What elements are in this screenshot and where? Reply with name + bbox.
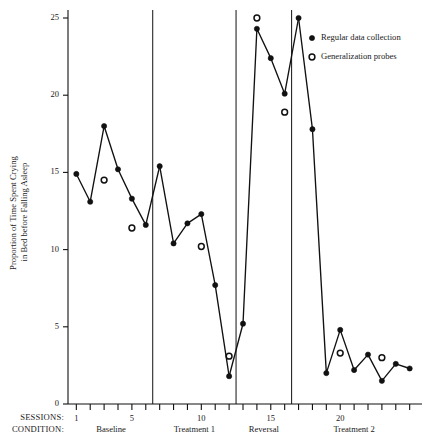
condition-row-label: CONDITION: (12, 424, 64, 434)
legend-open-circle-icon (309, 54, 315, 60)
x-tick-label: 1 (74, 413, 78, 423)
y-tick-label: 10 (51, 244, 60, 254)
svg-text:Proportion of Time Spent Cryin: Proportion of Time Spent Crying in Bed b… (8, 154, 29, 270)
probe-point (337, 350, 343, 356)
legend-label-regular: Regular data collection (321, 32, 401, 42)
y-axis-title-line2: in Bed before Falling Asleep (19, 163, 29, 262)
probe-point (379, 355, 385, 361)
data-point (143, 222, 148, 227)
y-axis-title: Proportion of Time Spent Crying in Bed b… (8, 154, 29, 270)
data-point (171, 241, 176, 246)
data-point (365, 352, 370, 357)
data-point (88, 199, 93, 204)
data-point (199, 211, 204, 216)
data-path-treatment-2 (299, 18, 410, 381)
data-point (185, 221, 190, 226)
data-point (310, 127, 315, 132)
data-point (393, 361, 398, 366)
condition-label: Baseline (96, 424, 126, 434)
legend-label-probes: Generalization probes (321, 51, 397, 61)
legend-filled-circle-icon (309, 35, 314, 40)
probe-point (254, 15, 260, 21)
data-point (240, 321, 245, 326)
data-point (213, 283, 218, 288)
x-tick-label: 10 (197, 413, 206, 423)
y-tick-label: 0 (55, 398, 59, 408)
generalization-probe-group (101, 15, 385, 360)
condition-label: Treatment 2 (333, 424, 374, 434)
condition-label: Treatment 1 (174, 424, 215, 434)
data-point (282, 91, 287, 96)
probe-point (226, 353, 232, 359)
x-axis-ticks (76, 404, 409, 410)
y-axis-ticks (63, 18, 68, 404)
x-tick-label: 5 (130, 413, 134, 423)
data-point (157, 164, 162, 169)
data-point (324, 371, 329, 376)
data-point (102, 123, 107, 128)
data-point (352, 367, 357, 372)
figure-container: 0510152025 15101520 Proportion of Time S… (0, 0, 425, 441)
data-point (254, 26, 259, 31)
data-path-reversal (243, 29, 285, 324)
data-point (227, 374, 232, 379)
y-tick-label: 25 (51, 12, 60, 22)
x-tick-label: 15 (267, 413, 276, 423)
data-point (379, 378, 384, 383)
data-point (296, 15, 301, 20)
y-tick-label: 20 (51, 89, 60, 99)
data-path-treatment-1 (160, 166, 229, 376)
data-point-group (74, 15, 413, 383)
probe-point (101, 177, 107, 183)
data-point (268, 56, 273, 61)
probe-point (129, 225, 135, 231)
probe-point (282, 109, 288, 115)
y-tick-label: 5 (55, 321, 59, 331)
y-axis-tick-labels: 0510152025 (51, 12, 60, 408)
y-tick-label: 15 (51, 166, 60, 176)
data-point (338, 327, 343, 332)
x-axis-tick-labels: 15101520 (74, 413, 344, 423)
data-point (129, 196, 134, 201)
x-tick-label: 20 (336, 413, 345, 423)
data-point (74, 171, 79, 176)
data-point (115, 167, 120, 172)
phase-change-lines (153, 10, 292, 404)
y-axis-title-line1: Proportion of Time Spent Crying (8, 156, 18, 270)
data-point (407, 366, 412, 371)
condition-labels-group: BaselineTreatment 1ReversalTreatment 2 (96, 424, 375, 434)
data-path-baseline (76, 126, 145, 225)
sessions-row-label: SESSIONS: (20, 412, 64, 422)
axes-group (68, 10, 422, 404)
condition-label: Reversal (249, 424, 280, 434)
legend: Regular data collection Generalization p… (309, 32, 401, 61)
single-subject-line-chart: 0510152025 15101520 Proportion of Time S… (0, 0, 425, 441)
probe-point (198, 244, 204, 250)
